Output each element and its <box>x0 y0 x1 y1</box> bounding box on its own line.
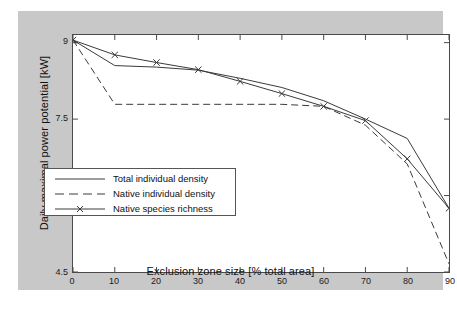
x-axis-title: Exclusion zone size [% total area] <box>18 265 443 277</box>
legend-label: Total individual density <box>113 173 208 185</box>
legend-swatch-dashed-line <box>53 186 107 202</box>
x-tick-label: 0 <box>69 277 74 286</box>
chart-screenshot: 4.567.59 0102030405060708090 Daily maxim… <box>0 0 457 309</box>
y-axis-title: Daily maximal power potential [kW] <box>38 23 50 263</box>
chart-legend: Total individual density Native individu… <box>44 168 236 216</box>
legend-label: Native species richness <box>113 203 213 215</box>
x-tick-label: 50 <box>277 277 287 286</box>
legend-swatch-marker-line <box>53 201 107 217</box>
x-tick-label: 40 <box>235 277 245 286</box>
legend-label: Native individual density <box>113 188 215 200</box>
legend-entry-native-individual-density: Native individual density <box>45 186 235 202</box>
legend-entry-total-individual-density: Total individual density <box>45 171 235 187</box>
legend-swatch-solid-line <box>53 171 107 187</box>
figure-panel: 4.567.59 0102030405060708090 Daily maxim… <box>18 11 443 290</box>
x-tick-label: 20 <box>151 277 161 286</box>
x-tick-label: 80 <box>403 277 413 286</box>
x-tick-label: 90 <box>445 277 455 286</box>
x-tick-label: 30 <box>193 277 203 286</box>
x-tick-label: 60 <box>319 277 329 286</box>
x-tick-label: 10 <box>109 277 119 286</box>
x-tick-label: 70 <box>361 277 371 286</box>
x-axis-tick-labels: 0102030405060708090 <box>18 11 443 290</box>
legend-entry-native-species-richness: Native species richness <box>45 201 235 217</box>
series-marker <box>446 205 449 211</box>
